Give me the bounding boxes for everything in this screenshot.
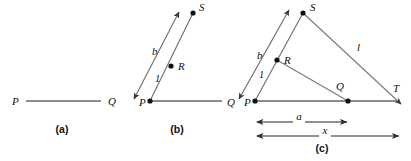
point-dot-P <box>147 98 152 103</box>
panel-caption-c: (c) <box>316 142 329 154</box>
point-dot-S <box>300 10 305 15</box>
segment-ST <box>303 13 401 104</box>
label-b: b <box>152 45 158 57</box>
point-label-Q: Q <box>227 96 235 108</box>
point-label-P: P <box>243 96 251 108</box>
point-label-P: P <box>138 96 146 108</box>
panel-caption-b: (b) <box>170 123 183 135</box>
point-label-S: S <box>199 1 205 13</box>
point-label-Q: Q <box>336 80 344 92</box>
figure-root: PQ(a)PQRSb1(b)PQRSTb1lax(c) <box>0 0 411 161</box>
panel-c: PQRSTb1lax(c) <box>239 1 401 154</box>
label-1: 1 <box>259 69 264 80</box>
geometry-figure: PQ(a)PQRSb1(b)PQRSTb1lax(c) <box>0 0 411 161</box>
point-dot-S <box>190 10 195 15</box>
panel-b: PQRSb1(b) <box>134 1 235 135</box>
point-label-R: R <box>177 60 185 72</box>
label-l: l <box>357 41 360 53</box>
dimension-x-label: x <box>322 124 328 136</box>
point-dot-R <box>168 63 173 68</box>
panel-caption-a: (a) <box>56 123 69 135</box>
dimension-a-label: a <box>296 110 302 122</box>
point-label-Q: Q <box>108 95 116 107</box>
point-label-P: P <box>11 95 19 107</box>
panel-a: PQ(a) <box>11 95 116 135</box>
label-1: 1 <box>155 73 160 84</box>
point-dot-R <box>274 57 279 62</box>
label-b: b <box>257 49 263 61</box>
point-dot-Q <box>345 98 350 103</box>
point-label-S: S <box>310 1 316 13</box>
figure-content: PQ(a)PQRSb1(b)PQRSTb1lax(c) <box>11 1 401 154</box>
point-label-R: R <box>283 54 291 66</box>
point-label-T: T <box>393 82 400 94</box>
point-dot-P <box>252 98 257 103</box>
